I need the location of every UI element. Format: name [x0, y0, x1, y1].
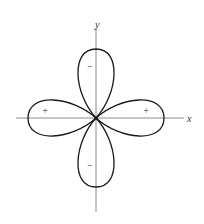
origin-node [94, 116, 97, 119]
sign-bottom: − [87, 160, 93, 171]
x-axis-label: x [186, 113, 192, 124]
sign-right: + [143, 105, 149, 116]
y-axis-label: y [94, 19, 100, 30]
sign-top: − [87, 61, 93, 72]
orbital-diagram: y x + + − − [0, 0, 204, 224]
sign-left: + [42, 105, 48, 116]
